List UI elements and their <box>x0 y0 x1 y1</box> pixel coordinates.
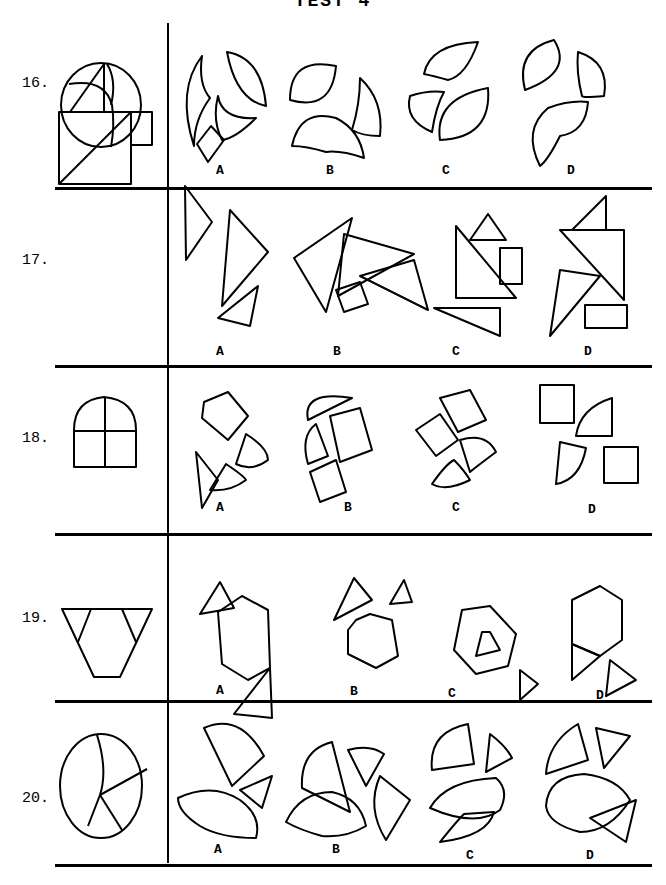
figure-17-option-b <box>294 218 428 312</box>
figure-19-option-c <box>454 606 538 700</box>
figure-20-option-b <box>286 742 410 840</box>
figure-20-reference <box>60 734 147 838</box>
figure-19-option-d <box>572 586 636 696</box>
figure-17-option-a <box>185 126 268 326</box>
figure-19-reference <box>62 609 152 677</box>
figure-20-option-c <box>430 724 512 842</box>
figure-18-reference <box>74 397 136 467</box>
figure-18-option-b <box>305 396 372 502</box>
figure-16-option-d <box>523 40 605 166</box>
figure-19-option-b <box>334 578 412 668</box>
figure-17-option-d <box>550 196 627 336</box>
figure-17-option-c <box>434 214 522 336</box>
figure-18-option-a <box>196 392 268 508</box>
figure-16-option-b <box>290 64 381 158</box>
figure-20-option-a <box>178 724 272 838</box>
figure-18-option-d <box>540 385 638 484</box>
figure-16-reference <box>61 63 141 147</box>
figure-17-reference <box>59 64 152 184</box>
figure-20-option-d <box>546 724 636 842</box>
figure-16-option-c <box>409 42 488 140</box>
figure-19-option-a <box>200 582 272 718</box>
figure-18-option-c <box>416 390 496 487</box>
figures-canvas <box>0 0 666 885</box>
figure-16-option-a <box>187 52 266 146</box>
